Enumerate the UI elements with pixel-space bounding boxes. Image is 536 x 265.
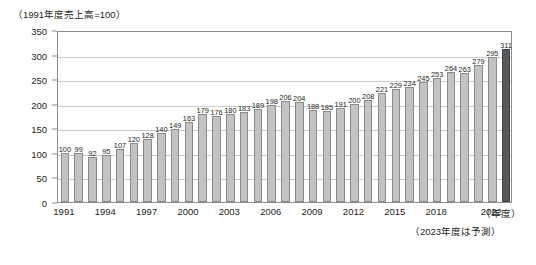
bar — [226, 114, 235, 202]
bar — [157, 133, 166, 202]
bar — [336, 108, 345, 202]
bar — [419, 82, 428, 202]
bar — [488, 57, 497, 202]
y-axis-tick-label: 0 — [42, 198, 47, 209]
plot-area: 1009992951071201281401491631791761801831… — [57, 31, 512, 203]
bar — [212, 116, 221, 202]
x-axis-tick-label: 2006 — [260, 206, 281, 217]
bar — [460, 73, 469, 202]
bar — [185, 122, 194, 202]
x-axis-tick-label: 2018 — [426, 206, 447, 217]
x-axis: 1991199419972000200320062009201220152018… — [57, 206, 512, 226]
x-axis-tick-label: 1994 — [95, 206, 116, 217]
bar — [254, 109, 263, 202]
bar — [502, 49, 511, 202]
y-axis-tick-label: 350 — [31, 26, 47, 37]
bar — [474, 65, 483, 202]
bar — [198, 114, 207, 202]
bar — [130, 143, 139, 202]
bar — [102, 155, 111, 202]
bar — [295, 102, 304, 202]
bar — [240, 112, 249, 202]
bar — [364, 100, 373, 202]
y-axis-tick-label: 200 — [31, 99, 47, 110]
bar — [143, 139, 152, 202]
y-axis-tick-label: 50 — [36, 173, 47, 184]
y-axis-tick-label: 100 — [31, 148, 47, 159]
bar — [392, 89, 401, 202]
chart-index-note: （1991年度売上高=100） — [13, 7, 126, 21]
bar — [74, 153, 83, 202]
y-axis: 050100150200250300350 — [0, 31, 57, 203]
bar — [171, 129, 180, 202]
bar — [309, 110, 318, 202]
bar — [378, 93, 387, 202]
x-axis-tick-label: 1991 — [53, 206, 74, 217]
x-axis-tick-label: 2000 — [177, 206, 198, 217]
x-axis-unit-label: （年度） — [481, 206, 521, 220]
x-axis-tick-label: 2012 — [343, 206, 364, 217]
bar — [116, 149, 125, 202]
bar — [88, 157, 97, 202]
y-axis-tick-label: 300 — [31, 50, 47, 61]
bar — [61, 153, 70, 202]
bar — [281, 101, 290, 202]
y-axis-tick-label: 250 — [31, 75, 47, 86]
x-axis-tick-label: 2015 — [384, 206, 405, 217]
bar — [405, 87, 414, 202]
y-axis-tick-label: 150 — [31, 124, 47, 135]
forecast-footnote: （2023年度は予測） — [410, 224, 501, 238]
bar — [433, 78, 442, 202]
x-axis-tick-label: 2009 — [301, 206, 322, 217]
x-axis-tick-label: 2003 — [219, 206, 240, 217]
bar-series: 1009992951071201281401491631791761801831… — [58, 32, 511, 202]
bar — [323, 111, 332, 202]
bar-value-label: 311 — [492, 42, 520, 49]
bar — [447, 72, 456, 202]
bar — [350, 104, 359, 202]
x-axis-tick-label: 1997 — [136, 206, 157, 217]
bar — [267, 105, 276, 202]
